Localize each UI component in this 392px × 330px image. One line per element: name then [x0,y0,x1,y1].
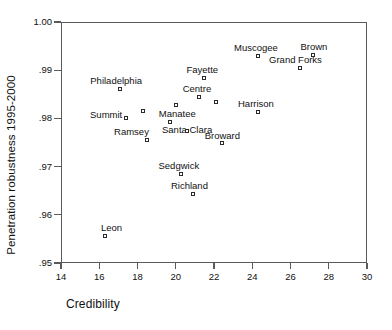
data-point-label: Broward [205,131,240,141]
data-point-label: Manatee [159,109,196,119]
x-tick-label: 18 [126,271,150,282]
scatter-chart: Penetration robustness 1995-2000 Credibi… [0,0,392,330]
x-axis-title: Credibility [66,297,120,311]
data-point-marker[interactable] [124,116,128,120]
data-point-marker[interactable] [298,66,302,70]
x-tick-label: 30 [355,271,379,282]
data-point-label: Leon [101,223,122,233]
data-point-marker[interactable] [214,100,218,104]
x-tick-mark [213,263,214,269]
data-point-marker[interactable] [103,234,107,238]
data-point-marker[interactable] [256,110,260,114]
data-point-marker[interactable] [256,54,260,58]
data-point-marker[interactable] [179,172,183,176]
x-tick-label: 24 [240,271,264,282]
data-point-marker[interactable] [202,76,206,80]
y-tick-mark [54,214,61,215]
data-point-label: Fayette [186,65,218,75]
y-tick-mark [54,166,61,167]
x-tick-label: 28 [317,271,341,282]
x-tick-mark [290,263,291,269]
y-tick-label: .99 [26,64,52,75]
data-point-marker[interactable] [185,129,189,133]
data-point-label: Summit [90,110,122,120]
y-axis-title: Penetration robustness 1995-2000 [0,0,22,330]
x-tick-label: 22 [202,271,226,282]
data-point-marker[interactable] [145,138,149,142]
data-point-marker[interactable] [220,141,224,145]
data-point-label: Brown [300,42,327,52]
data-point-label: Sedgwick [158,161,199,171]
x-tick-label: 16 [87,271,111,282]
data-point-label: Centre [183,84,212,94]
data-point-marker[interactable] [141,109,145,113]
x-tick-label: 14 [49,271,73,282]
x-tick-mark [366,263,367,269]
x-tick-label: 26 [279,271,303,282]
data-point-marker[interactable] [191,192,195,196]
data-point-marker[interactable] [118,87,122,91]
data-point-label: Harrison [238,99,274,109]
y-tick-mark [54,70,61,71]
data-point-label: Philadelphia [90,76,142,86]
data-point-label: Ramsey [114,127,149,137]
x-tick-mark [328,263,329,269]
x-tick-mark [60,263,61,269]
data-point-label: Muscogee [234,43,278,53]
x-tick-label: 20 [164,271,188,282]
y-tick-label: .97 [26,161,52,172]
data-point-marker[interactable] [174,103,178,107]
data-point-marker[interactable] [311,53,315,57]
x-tick-mark [175,263,176,269]
y-tick-mark [54,118,61,119]
x-tick-mark [252,263,253,269]
y-tick-label: .96 [26,209,52,220]
y-tick-label: 1.00 [26,16,52,27]
y-tick-label: .98 [26,112,52,123]
x-tick-mark [99,263,100,269]
data-point-marker[interactable] [197,95,201,99]
data-point-label: Richland [171,181,208,191]
y-tick-mark [54,21,61,22]
x-tick-mark [137,263,138,269]
y-tick-label: .95 [26,257,52,268]
